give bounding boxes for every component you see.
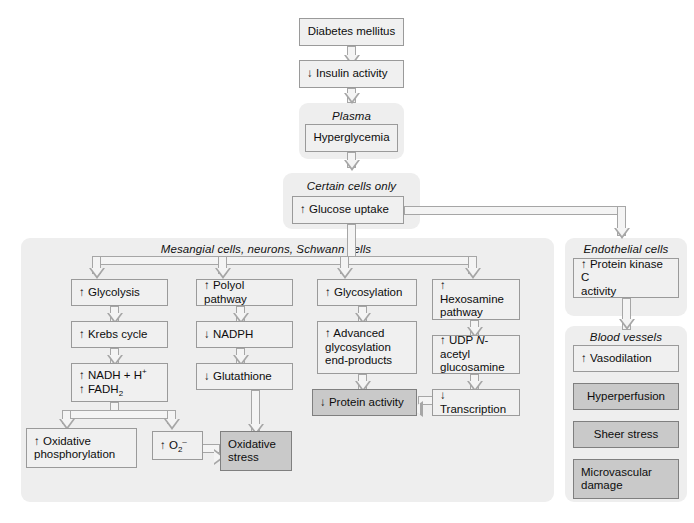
arrowhead-drop-glycosylation — [337, 268, 353, 279]
arrowhead-insulin-hyperglycemia — [344, 93, 360, 104]
arrowhead-hyperglycemia-glucose — [344, 160, 360, 171]
node-label: ↑ Advanced glycosylation end-products — [325, 327, 392, 368]
connector-joint-right — [618, 207, 625, 215]
node-label: ↑ Polyol pathway — [204, 279, 285, 306]
node-label: ↑ NADH + H+↑ FADH2 — [79, 369, 147, 396]
connector-nadh-split-bar — [62, 410, 176, 419]
node-label: ↑ O2– — [160, 439, 187, 453]
node-label: ↑ Glycosylation — [325, 286, 402, 300]
node-nadph[interactable]: ↓ NADPH — [196, 321, 293, 348]
panel-title-endothelial: Endothelial cells — [565, 243, 687, 255]
node-udp-n-acetyl-glucosamine[interactable]: ↑ UDP N-acetyl glucosamine — [432, 335, 520, 374]
node-label: ↑ Vasodilation — [581, 352, 652, 366]
node-insulin-activity[interactable]: ↓ Insulin activity — [299, 60, 404, 88]
arrowhead-drop-glycolysis — [89, 268, 105, 279]
node-label: Diabetes mellitus — [308, 25, 396, 39]
node-nadh-fadh[interactable]: ↑ NADH + H+↑ FADH2 — [71, 363, 168, 402]
connector-joint-nadh-split — [111, 411, 118, 417]
node-glutathione[interactable]: ↓ Glutathione — [196, 363, 293, 390]
node-microvascular-damage[interactable]: Microvascular damage — [573, 459, 679, 499]
arrowhead-nadh-superoxide — [164, 419, 180, 430]
node-oxidative-phosphorylation[interactable]: ↑ Oxidative phosphorylation — [26, 428, 137, 468]
node-label: Hyperglycemia — [313, 131, 389, 145]
node-polyol-pathway[interactable]: ↑ Polyol pathway — [196, 279, 293, 306]
node-glycolysis[interactable]: ↑ Glycolysis — [71, 279, 168, 306]
node-diabetes-mellitus[interactable]: Diabetes mellitus — [299, 18, 404, 46]
node-label: ↓ NADPH — [204, 328, 253, 342]
node-protein-activity[interactable]: ↓ Protein activity — [312, 389, 417, 416]
node-label: ↑ Glycolysis — [79, 286, 140, 300]
node-superoxide[interactable]: ↑ O2– — [152, 431, 203, 460]
node-label: Microvascular damage — [581, 466, 652, 493]
node-label: ↑ Hexosamine pathway — [440, 279, 512, 320]
panel-title-blood-vessels: Blood vessels — [565, 331, 687, 343]
node-label: ↓ Glutathione — [204, 370, 272, 384]
node-vasodilation[interactable]: ↑ Vasodilation — [573, 345, 679, 372]
connector-joint-distribution — [348, 257, 355, 263]
node-label: ↑ Oxidative phosphorylation — [34, 435, 115, 462]
node-sheer-stress[interactable]: Sheer stress — [573, 421, 679, 448]
node-glucose-uptake[interactable]: ↑ Glucose uptake — [292, 196, 404, 224]
node-hexosamine-pathway[interactable]: ↑ Hexosamine pathway — [432, 279, 520, 320]
panel-title-certain-cells: Certain cells only — [283, 180, 420, 192]
node-hyperglycemia[interactable]: Hyperglycemia — [305, 124, 398, 152]
node-oxidative-stress[interactable]: Oxidative stress — [220, 431, 292, 471]
node-label: Hyperperfusion — [587, 390, 665, 404]
arrowhead-glucose-endothelial — [614, 228, 630, 239]
node-label: ↑ Protein kinase C activity — [581, 258, 671, 299]
node-transcription[interactable]: ↓ Transcription — [432, 389, 520, 416]
node-label: ↑ Krebs cycle — [79, 328, 147, 342]
node-label: ↓ Protein activity — [320, 396, 404, 410]
node-label: ↓ Insulin activity — [307, 67, 388, 81]
node-advanced-glycosylation-end-products[interactable]: ↑ Advanced glycosylation end-products — [317, 321, 417, 374]
node-glycosylation[interactable]: ↑ Glycosylation — [317, 279, 417, 306]
node-label: Oxidative stress — [228, 438, 276, 465]
connector-mesangial-distribution-bar — [92, 256, 477, 265]
arrowhead-drop-hexosamine — [465, 268, 481, 279]
node-krebs-cycle[interactable]: ↑ Krebs cycle — [71, 321, 168, 348]
node-protein-kinase-c-activity[interactable]: ↑ Protein kinase C activity — [573, 258, 679, 298]
node-hyperperfusion[interactable]: Hyperperfusion — [573, 383, 679, 410]
node-label: Sheer stress — [594, 428, 659, 442]
flowchart-canvas: Plasma Certain cells only Mesangial cell… — [0, 0, 694, 523]
panel-title-mesangial: Mesangial cells, neurons, Schwann cells — [21, 243, 511, 255]
arrowhead-pkc-vasodilation — [619, 319, 635, 330]
node-label: ↑ UDP N-acetyl glucosamine — [440, 334, 512, 375]
node-label: ↑ Glucose uptake — [300, 203, 389, 217]
panel-title-plasma: Plasma — [299, 110, 404, 122]
node-label: ↓ Transcription — [440, 389, 512, 416]
connector-glucose-right-horizontal — [404, 206, 626, 215]
arrowhead-drop-polyol — [215, 268, 231, 279]
